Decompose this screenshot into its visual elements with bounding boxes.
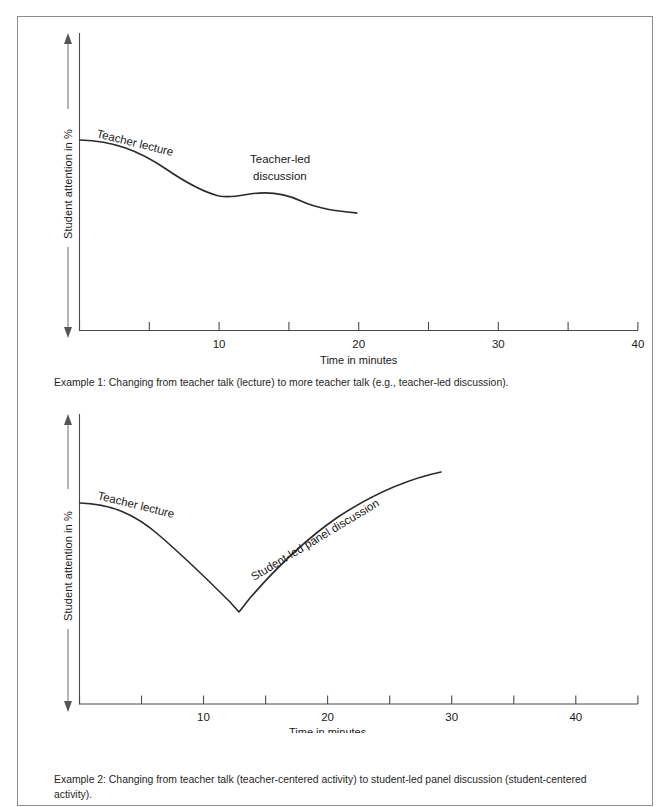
curve-label-teacher-led-discussion-line1: Teacher-led xyxy=(250,153,310,165)
attention-curve-example-2 xyxy=(80,472,441,612)
caption-example-1: Example 1: Changing from teacher talk (l… xyxy=(54,376,626,391)
x-tick-label-10: 10 xyxy=(213,338,226,350)
chart-panel-example-1: Student attention in % xyxy=(18,17,654,387)
x-tick-label-30: 30 xyxy=(492,338,505,350)
x-axis-ticks xyxy=(80,322,638,331)
attention-curve-example-1 xyxy=(80,140,357,213)
x-tick-label-40: 40 xyxy=(569,711,582,723)
caption-example-2: Example 2: Changing from teacher talk (t… xyxy=(54,773,626,802)
y-axis-label-example-1: Student attention in % xyxy=(62,129,74,239)
x-axis-label-example-2: Time in minutes xyxy=(289,726,367,733)
x-axis-label-example-1: Time in minutes xyxy=(320,354,398,366)
curve-label-teacher-lecture: Teacher lecture xyxy=(97,489,176,520)
x-axis-ticks xyxy=(80,696,638,705)
chart-panel-example-2: Student attention in % 10 xyxy=(18,393,654,807)
x-tick-label-30: 30 xyxy=(445,711,458,723)
curve-label-teacher-led-discussion-line2: discussion xyxy=(253,170,307,182)
x-tick-label-20: 20 xyxy=(352,338,365,350)
figure-box: Student attention in % xyxy=(17,16,653,806)
x-tick-label-10: 10 xyxy=(197,711,210,723)
chart-example-1: Student attention in % xyxy=(18,17,654,377)
x-tick-label-40: 40 xyxy=(632,338,645,350)
y-axis-label-example-2: Student attention in % xyxy=(62,511,74,621)
curve-label-student-led-panel-discussion: Student-led panel discussion xyxy=(249,497,381,583)
chart-example-2: Student attention in % 10 xyxy=(18,393,654,733)
top-cut-text xyxy=(18,0,638,6)
x-tick-label-20: 20 xyxy=(321,711,334,723)
